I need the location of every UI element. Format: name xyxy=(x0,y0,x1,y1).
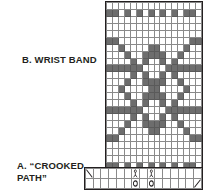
diagonal-down-icon xyxy=(86,169,93,178)
diagonal-up-icon xyxy=(194,179,201,188)
wrist-band-row xyxy=(107,79,202,86)
bead-cell-empty xyxy=(196,58,202,65)
bead-cell-empty xyxy=(178,169,186,179)
bead-cell-empty xyxy=(147,179,155,189)
wrist-band-row xyxy=(107,155,202,162)
wrist-band-row xyxy=(107,9,202,16)
wrist-band-row xyxy=(107,37,202,44)
wrist-band-row xyxy=(107,65,202,72)
bead-cell-empty xyxy=(124,169,132,179)
bead-cell-empty xyxy=(170,179,178,189)
crooked-path-label: A. “CROOKED PATH” xyxy=(17,160,84,183)
bead-cell-empty xyxy=(124,179,132,189)
bead-figure-icon xyxy=(132,169,139,178)
bead-cell-empty xyxy=(196,141,202,148)
bead-cell-empty xyxy=(196,127,202,134)
bead-cell-empty xyxy=(140,169,148,179)
wrist-band-row xyxy=(107,51,202,58)
wrist-band-row xyxy=(107,3,202,10)
bead-cell-empty xyxy=(196,3,202,10)
wrist-band-row xyxy=(107,114,202,121)
bead-cell-filled xyxy=(196,37,202,44)
bead-cell-empty xyxy=(186,169,194,179)
wrist-band-label: B. WRIST BAND xyxy=(22,54,97,65)
bead-cell-empty xyxy=(109,179,117,189)
wrist-band-row xyxy=(107,127,202,134)
bead-cell-empty xyxy=(196,30,202,37)
bead-cell-empty xyxy=(196,79,202,86)
bead-cell-empty xyxy=(86,169,94,179)
bead-cell-empty xyxy=(196,72,202,79)
wrist-band-row xyxy=(107,148,202,155)
wrist-band-row xyxy=(107,23,202,30)
circle-icon xyxy=(148,179,155,188)
bead-cell-filled xyxy=(196,134,202,141)
bead-cell-empty xyxy=(178,179,186,189)
bead-cell-empty xyxy=(101,169,109,179)
bead-cell-empty xyxy=(196,86,202,93)
bead-cell-empty xyxy=(163,169,171,179)
wrist-band-row xyxy=(107,141,202,148)
bead-cell-empty xyxy=(196,51,202,58)
wrist-band-row xyxy=(107,93,202,100)
bead-cell-empty xyxy=(93,179,101,189)
wrist-band-row xyxy=(107,16,202,23)
crooked-path-label-line1: A. “CROOKED xyxy=(17,160,84,172)
wrist-band-row xyxy=(107,30,202,37)
crooked-path-grid xyxy=(85,168,202,189)
wrist-band-row xyxy=(107,120,202,127)
bead-cell-empty xyxy=(196,23,202,30)
wrist-band-row xyxy=(107,100,202,107)
bead-figure-icon xyxy=(148,169,155,178)
bead-cell-empty xyxy=(93,169,101,179)
bead-cell-empty xyxy=(140,179,148,189)
circle-icon xyxy=(132,179,139,188)
bead-cell-empty xyxy=(163,179,171,189)
bead-cell-empty xyxy=(196,16,202,23)
wrist-band-row xyxy=(107,44,202,51)
bead-cell-empty xyxy=(196,155,202,162)
crooked-path-chart xyxy=(84,167,203,190)
wrist-band-row xyxy=(107,58,202,65)
bead-cell-empty xyxy=(101,179,109,189)
crooked-path-label-line2: PATH” xyxy=(17,172,84,184)
bead-cell-empty xyxy=(196,9,202,16)
bead-cell-empty xyxy=(196,93,202,100)
bead-cell-empty xyxy=(155,169,163,179)
wrist-band-row xyxy=(107,72,202,79)
wrist-band-row xyxy=(107,134,202,141)
crooked-path-row xyxy=(86,179,202,189)
bead-cell-empty xyxy=(196,100,202,107)
bead-cell-empty xyxy=(109,169,117,179)
bead-cell-empty xyxy=(194,169,202,179)
bead-cell-empty xyxy=(147,169,155,179)
bead-cell-empty xyxy=(186,179,194,189)
wrist-band-row xyxy=(107,107,202,114)
bead-cell-filled xyxy=(196,107,202,114)
bead-cell-empty xyxy=(196,44,202,51)
bead-cell-empty xyxy=(132,179,140,189)
crooked-path-row xyxy=(86,169,202,179)
bead-cell-empty xyxy=(194,179,202,189)
wrist-band-row xyxy=(107,86,202,93)
bead-cell-empty xyxy=(86,179,94,189)
bead-cell-empty xyxy=(155,179,163,189)
bead-cell-empty xyxy=(170,169,178,179)
bead-cell-empty xyxy=(116,169,124,179)
bead-cell-empty xyxy=(116,179,124,189)
bead-cell-empty xyxy=(196,120,202,127)
wrist-band-grid xyxy=(106,2,202,176)
bead-cell-empty xyxy=(196,114,202,121)
bead-cell-empty xyxy=(196,148,202,155)
bead-cell-empty xyxy=(132,169,140,179)
wrist-band-chart xyxy=(105,1,203,177)
bead-cell-filled xyxy=(196,65,202,72)
